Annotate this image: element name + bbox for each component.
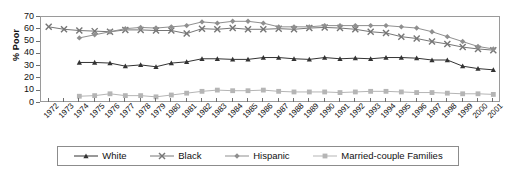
chart-legend: WhiteBlackHispanicMarried-couple Familie… bbox=[57, 146, 459, 166]
data-point bbox=[399, 24, 404, 29]
x-tick-mark bbox=[124, 98, 125, 102]
x-marker bbox=[149, 150, 175, 162]
data-point bbox=[77, 35, 82, 40]
data-point bbox=[215, 20, 220, 25]
data-point bbox=[246, 88, 251, 93]
data-point bbox=[138, 25, 143, 30]
y-tick-label: 30 bbox=[12, 61, 34, 70]
x-tick-mark bbox=[293, 98, 294, 102]
chart-svg bbox=[41, 17, 501, 103]
x-tick-mark bbox=[78, 98, 79, 102]
data-point bbox=[476, 91, 481, 96]
x-tick-mark bbox=[324, 98, 325, 102]
x-tick-mark bbox=[262, 98, 263, 102]
x-tick-mark bbox=[400, 98, 401, 102]
data-point bbox=[307, 90, 312, 95]
data-point bbox=[414, 90, 419, 95]
data-point bbox=[184, 91, 189, 96]
data-point bbox=[491, 92, 496, 97]
data-point bbox=[460, 91, 465, 96]
data-point bbox=[460, 39, 465, 44]
data-point bbox=[429, 29, 434, 34]
x-tick-mark bbox=[216, 98, 217, 102]
data-point bbox=[230, 88, 235, 93]
data-point bbox=[307, 24, 312, 29]
x-tick-mark bbox=[339, 98, 340, 102]
data-point bbox=[261, 20, 266, 25]
legend-item-married-couple-families[interactable]: Married-couple Families bbox=[312, 150, 442, 162]
data-point bbox=[445, 34, 450, 39]
x-tick-mark bbox=[354, 98, 355, 102]
data-point bbox=[169, 93, 174, 98]
x-tick-mark bbox=[446, 98, 447, 102]
x-tick-mark bbox=[416, 98, 417, 102]
x-tick-mark bbox=[201, 98, 202, 102]
x-tick-mark bbox=[94, 98, 95, 102]
data-point bbox=[230, 19, 235, 24]
data-point bbox=[430, 90, 435, 95]
data-point bbox=[368, 89, 373, 94]
data-point bbox=[384, 89, 389, 94]
x-axis-tick-labels: 1972197319741975197619771978197919801981… bbox=[40, 102, 500, 142]
legend-item-black[interactable]: Black bbox=[149, 150, 201, 162]
x-tick-mark bbox=[477, 98, 478, 102]
x-tick-mark bbox=[278, 98, 279, 102]
legend-label: Married-couple Families bbox=[341, 151, 442, 161]
x-tick-mark bbox=[170, 98, 171, 102]
data-point bbox=[245, 19, 250, 24]
x-tick-mark bbox=[247, 98, 248, 102]
series-black bbox=[46, 24, 497, 53]
data-point bbox=[383, 23, 388, 28]
x-tick-mark bbox=[462, 98, 463, 102]
series-line bbox=[79, 21, 493, 49]
legend-label: Hispanic bbox=[253, 151, 289, 161]
x-tick-mark bbox=[48, 98, 49, 102]
y-tick-label: 70 bbox=[12, 12, 34, 21]
x-tick-mark bbox=[63, 98, 64, 102]
data-point bbox=[215, 88, 220, 93]
legend-label: White bbox=[102, 151, 126, 161]
data-point bbox=[276, 89, 281, 94]
x-tick-mark bbox=[492, 98, 493, 102]
data-point bbox=[368, 23, 373, 28]
diamond-marker bbox=[224, 150, 250, 162]
x-tick-mark bbox=[140, 98, 141, 102]
data-point bbox=[353, 90, 358, 95]
y-tick-label: 0 bbox=[12, 98, 34, 107]
legend-item-hispanic[interactable]: Hispanic bbox=[224, 150, 289, 162]
y-tick-label: 10 bbox=[12, 85, 34, 94]
y-tick-label: 40 bbox=[12, 48, 34, 57]
data-point bbox=[445, 91, 450, 96]
data-point bbox=[491, 46, 496, 51]
x-tick-mark bbox=[109, 98, 110, 102]
data-point bbox=[184, 23, 189, 28]
x-tick-mark bbox=[308, 98, 309, 102]
data-point bbox=[338, 90, 343, 95]
series-hispanic bbox=[77, 19, 496, 52]
data-point bbox=[261, 88, 266, 93]
data-point bbox=[399, 90, 404, 95]
x-tick-mark bbox=[431, 98, 432, 102]
data-point bbox=[108, 91, 113, 96]
y-tick-label: 20 bbox=[12, 73, 34, 82]
x-tick-mark bbox=[370, 98, 371, 102]
y-tick-label: 50 bbox=[12, 36, 34, 45]
x-tick-mark bbox=[186, 98, 187, 102]
x-tick-mark bbox=[155, 98, 156, 102]
data-point bbox=[322, 90, 327, 95]
x-tick-mark bbox=[232, 98, 233, 102]
triangle-marker bbox=[73, 150, 99, 162]
data-point bbox=[199, 19, 204, 24]
square-marker bbox=[312, 150, 338, 162]
series-white bbox=[77, 55, 496, 72]
chart-container: % Poor 010203040506070 19721973197419751… bbox=[0, 0, 515, 172]
plot-area bbox=[40, 16, 500, 102]
data-point bbox=[292, 90, 297, 95]
legend-label: Black bbox=[178, 151, 201, 161]
data-point bbox=[414, 25, 419, 30]
x-tick-mark bbox=[385, 98, 386, 102]
y-tick-label: 60 bbox=[12, 24, 34, 33]
data-point bbox=[200, 89, 205, 94]
legend-item-white[interactable]: White bbox=[73, 150, 126, 162]
